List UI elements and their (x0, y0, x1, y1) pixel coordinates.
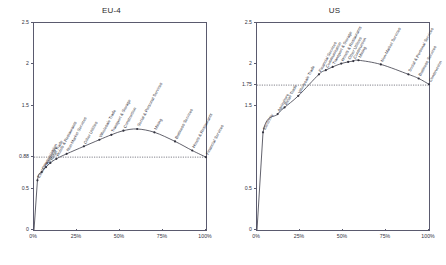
data-point (297, 95, 299, 97)
x-tick-label: 0% (29, 233, 37, 239)
y-tick-mark (254, 22, 256, 23)
data-point (332, 66, 334, 68)
data-point (122, 130, 124, 132)
y-tick-label: 2.5 (0, 19, 29, 25)
x-tick-label: 50% (337, 233, 347, 239)
x-tick-label: 100% (198, 233, 211, 239)
data-point (41, 171, 43, 173)
panel-us: US ElectricityAgricultureRetail TradeWho… (223, 0, 446, 265)
y-tick-mark (254, 105, 256, 106)
data-point (428, 83, 430, 85)
x-tick-mark (119, 229, 120, 231)
x-tick-label: 75% (380, 233, 390, 239)
point-label: Business Services (174, 108, 194, 140)
data-point (277, 113, 279, 115)
x-tick-mark (162, 229, 163, 231)
data-point (407, 73, 409, 75)
data-point (205, 156, 207, 158)
data-point (347, 61, 349, 63)
data-point (318, 73, 320, 75)
y-tick-label: 0.5 (0, 185, 29, 191)
y-tick-mark (254, 63, 256, 64)
data-point (191, 149, 193, 151)
point-label: Wholesale Trade (297, 64, 316, 94)
figure-root: EU-4 ElectricityCommunicationAgriculture… (0, 0, 446, 265)
data-point (110, 134, 112, 136)
y-tick-label: 0 (223, 226, 252, 232)
x-tick-mark (256, 229, 257, 231)
x-tick-mark (76, 229, 77, 231)
data-point (325, 69, 327, 71)
data-point (136, 128, 138, 130)
data-point (45, 166, 47, 168)
y-tick-label: 2 (223, 60, 252, 66)
data-point (36, 179, 38, 181)
x-tick-mark (385, 229, 386, 231)
y-tick-mark (31, 188, 33, 189)
y-tick-label: 1.5 (223, 102, 252, 108)
data-point (66, 153, 68, 155)
data-point (262, 131, 264, 133)
x-tick-label: 100% (421, 233, 434, 239)
point-label: Non-Market Services (380, 27, 402, 63)
x-tick-label: 25% (294, 233, 304, 239)
point-label: Financial Services (205, 124, 225, 156)
panel-title-us: US (223, 6, 446, 15)
y-tick-label: 0.88 (0, 153, 29, 159)
data-point (174, 140, 176, 142)
point-label: Mining (153, 117, 163, 131)
x-tick-mark (205, 229, 206, 231)
y-tick-mark (31, 105, 33, 106)
y-tick-label: 2.5 (223, 19, 252, 25)
y-tick-label: 1.75 (223, 81, 252, 87)
y-tick-label: 0.5 (223, 185, 252, 191)
data-point (153, 131, 155, 133)
x-tick-label: 0% (252, 233, 260, 239)
x-tick-mark (33, 229, 34, 231)
panel-title-eu-4: EU-4 (0, 6, 223, 15)
data-curve-us (257, 60, 429, 230)
y-tick-mark (254, 188, 256, 189)
data-point (357, 59, 359, 61)
x-tick-mark (299, 229, 300, 231)
data-point (55, 158, 57, 160)
chart-canvas-eu: ElectricityCommunicationAgricultureRetai… (34, 23, 206, 230)
y-tick-label: 0 (0, 226, 29, 232)
data-point (283, 106, 285, 108)
data-point (49, 162, 51, 164)
chart-canvas-us: ElectricityAgricultureRetail TradeWholes… (257, 23, 429, 230)
x-tick-label: 25% (71, 233, 81, 239)
y-tick-label: 1.5 (0, 102, 29, 108)
y-tick-label: 2 (0, 60, 29, 66)
x-tick-label: 50% (114, 233, 124, 239)
panel-eu-4: EU-4 ElectricityCommunicationAgriculture… (0, 0, 223, 265)
y-tick-mark (31, 156, 33, 157)
plot-area-us: ElectricityAgricultureRetail TradeWholes… (256, 22, 430, 231)
y-tick-mark (31, 22, 33, 23)
data-point (83, 145, 85, 147)
data-point (418, 77, 420, 79)
x-tick-label: 75% (157, 233, 167, 239)
data-point (98, 139, 100, 141)
x-tick-mark (428, 229, 429, 231)
point-label: Construction (428, 59, 444, 82)
plot-area-eu: ElectricityCommunicationAgricultureRetai… (33, 22, 207, 231)
data-point (380, 63, 382, 65)
data-point (352, 60, 354, 62)
y-tick-mark (31, 63, 33, 64)
y-tick-mark (254, 84, 256, 85)
point-label: Electricity (262, 112, 275, 131)
x-tick-mark (342, 229, 343, 231)
data-point (340, 62, 342, 64)
